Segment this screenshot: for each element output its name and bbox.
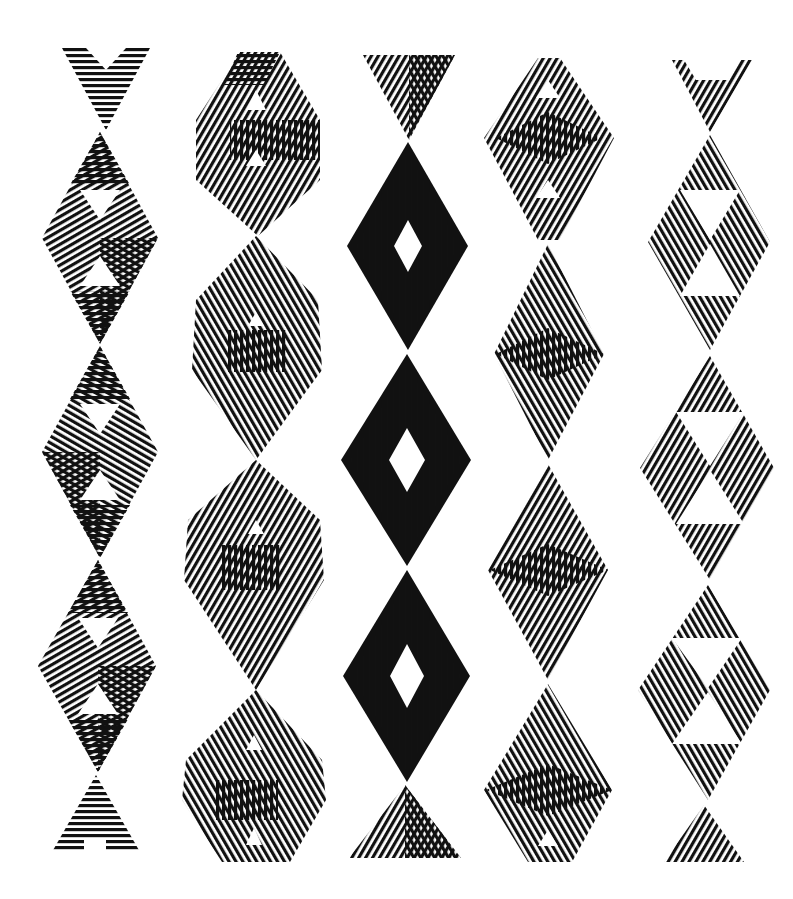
op-art-canvas [0,0,793,899]
column-5-split-diamonds [638,60,774,862]
column-3-concentric-diamonds [341,55,471,858]
column-4-crossed-lenses [484,58,614,862]
column-1-hexagram-triangles [38,48,158,852]
column-2-twisted-bands [182,52,326,862]
